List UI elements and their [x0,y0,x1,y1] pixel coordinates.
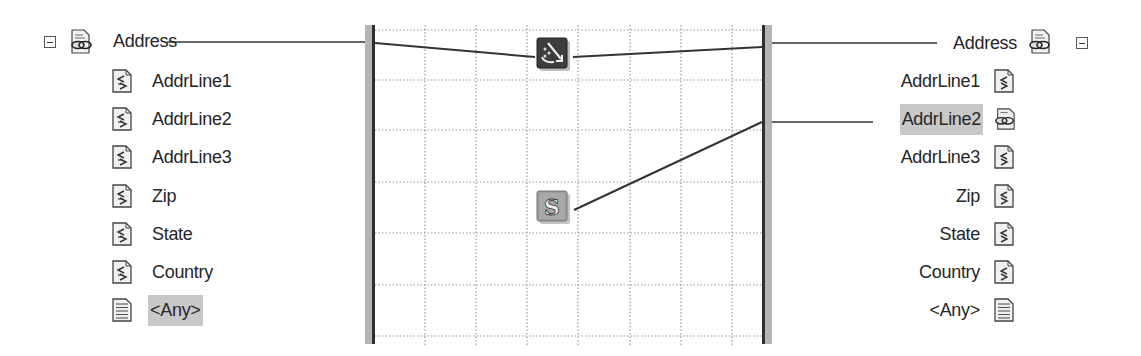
svg-text:S: S [544,194,560,220]
source-node-label: AddrLine1 [152,70,231,92]
destination-root-label[interactable]: Address [953,32,1017,54]
source-node-addrline1[interactable]: AddrLine1 [108,68,268,98]
any-element-icon [993,297,1015,323]
destination-node-label: AddrLine2 [900,104,983,135]
source-node-label: Country [152,261,213,283]
link-mass-copy-to-right-border[interactable] [573,47,762,57]
source-node-label: Zip [152,185,176,207]
source-node-zip[interactable]: Zip [108,183,268,213]
mass-copy-functoid[interactable] [536,37,572,73]
field-element-icon [993,144,1015,170]
destination-node-label: State [939,223,980,245]
left-grid-border-shade [365,25,373,344]
destination-node-zip[interactable]: Zip [860,183,1020,213]
field-element-icon [993,68,1015,94]
source-node-label: AddrLine2 [152,108,231,130]
any-element-icon [111,297,133,323]
field-element-icon [111,183,133,209]
destination-node-any[interactable]: <Any> [860,297,1020,327]
field-element-icon [993,221,1015,247]
linked-field-icon [994,106,1016,132]
source-node-country[interactable]: Country [108,259,268,289]
grid-lines [375,25,762,345]
string-functoid[interactable]: S [536,190,572,226]
source-node-label: AddrLine3 [152,146,231,168]
destination-node-addrline2[interactable]: AddrLine2 [860,106,1020,136]
source-node-any[interactable]: <Any> [108,297,268,327]
right-grid-border-line [762,25,765,344]
destination-node-addrline1[interactable]: AddrLine1 [860,68,1020,98]
destination-node-label: Zip [956,185,980,207]
source-collapse-toggle[interactable] [44,36,56,48]
destination-node-state[interactable]: State [860,221,1020,251]
record-link-icon [1027,29,1053,55]
source-node-addrline2[interactable]: AddrLine2 [108,106,268,136]
source-node-state[interactable]: State [108,221,268,251]
destination-node-label: AddrLine3 [901,146,980,168]
record-link-icon [68,29,94,55]
left-grid-border-line [372,25,375,344]
destination-node-addrline3[interactable]: AddrLine3 [860,144,1020,174]
destination-node-label: <Any> [929,299,980,321]
destination-node-label: Country [919,261,980,283]
field-element-icon [111,68,133,94]
right-grid-border-shade [765,25,772,344]
field-element-icon [111,221,133,247]
field-element-icon [111,106,133,132]
source-node-addrline3[interactable]: AddrLine3 [108,144,268,174]
destination-node-label: AddrLine1 [901,70,980,92]
source-root-label[interactable]: Address [113,30,177,52]
link-left-border-to-mass-copy[interactable] [375,43,535,57]
field-element-icon [993,183,1015,209]
field-element-icon [993,259,1015,285]
field-element-icon [111,144,133,170]
source-node-label: <Any> [148,295,203,326]
field-element-icon [111,259,133,285]
link-string-to-right-border[interactable] [574,122,762,210]
destination-node-country[interactable]: Country [860,259,1020,289]
source-node-label: State [152,223,193,245]
destination-collapse-toggle[interactable] [1076,37,1088,49]
